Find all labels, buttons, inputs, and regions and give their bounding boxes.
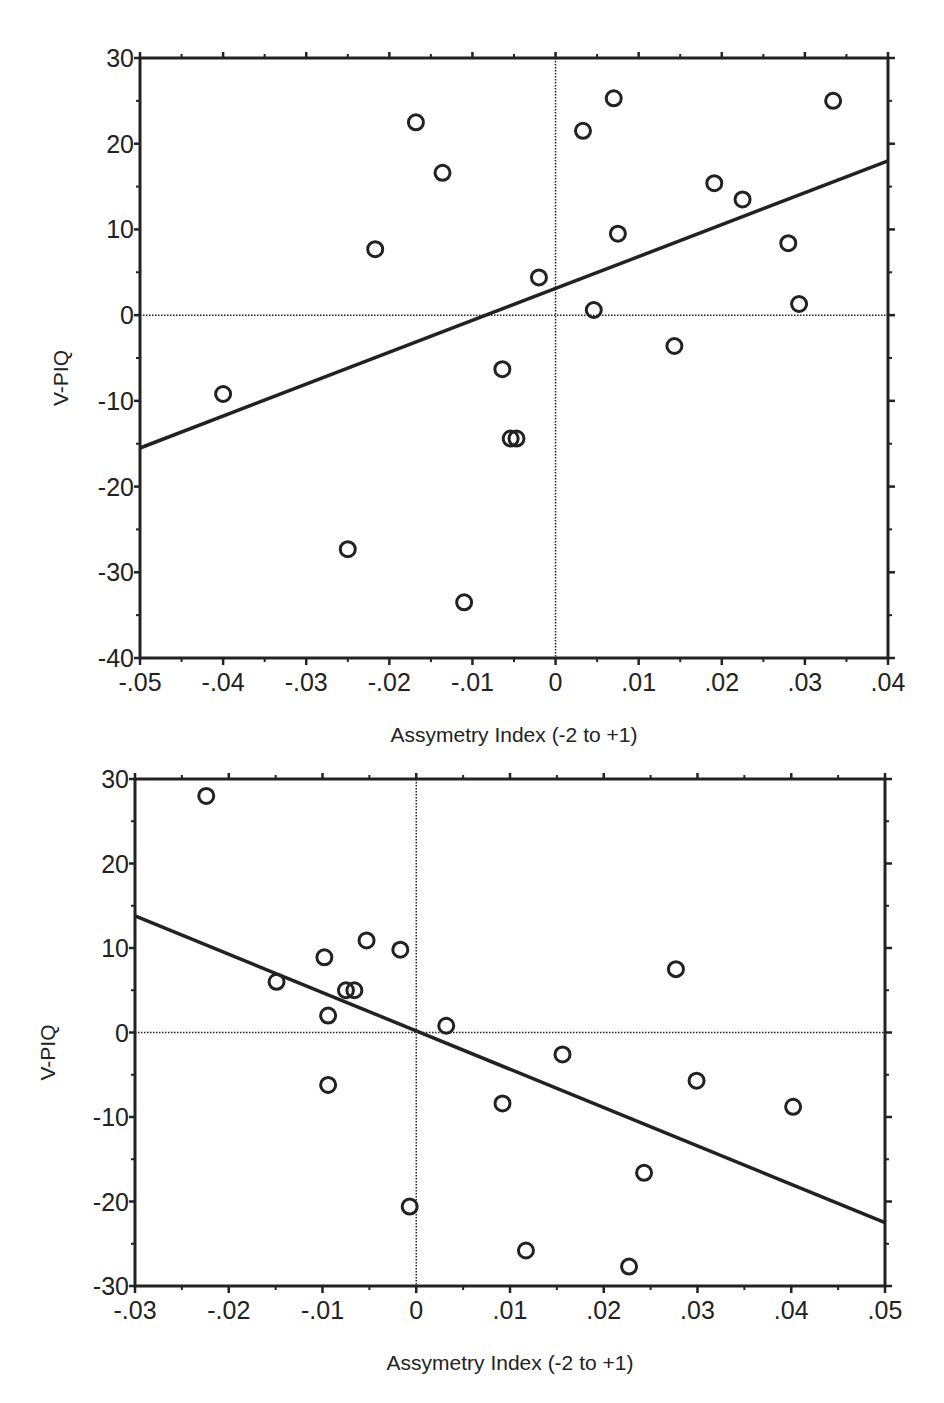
figure: -.05-.04-.03-.02-.010.01.02.03.043020100… xyxy=(0,0,944,1403)
x-tick-label: 0 xyxy=(409,1296,423,1324)
data-point xyxy=(359,933,374,948)
data-point xyxy=(622,1259,637,1274)
data-point xyxy=(786,1099,801,1114)
y-tick-label: 20 xyxy=(106,130,134,158)
regression-line xyxy=(140,161,888,448)
x-tick-label: -.04 xyxy=(202,668,245,696)
data-point xyxy=(199,788,214,803)
y-tick-label: 20 xyxy=(101,850,129,878)
x-axis-title: Assymetry Index (-2 to +1) xyxy=(387,1351,634,1374)
data-point xyxy=(435,165,450,180)
scatter-chart-top: -.05-.04-.03-.02-.010.01.02.03.043020100… xyxy=(49,44,905,746)
data-point xyxy=(792,297,807,312)
x-tick-label: .02 xyxy=(704,668,739,696)
data-point xyxy=(269,974,284,989)
data-point xyxy=(637,1165,652,1180)
x-tick-label: 0 xyxy=(549,668,563,696)
data-point xyxy=(518,1243,533,1258)
x-tick-label: .01 xyxy=(621,668,656,696)
data-point xyxy=(368,242,383,257)
y-tick-label: -20 xyxy=(93,1188,129,1216)
data-point xyxy=(321,1077,336,1092)
x-tick-label: -.05 xyxy=(118,668,161,696)
data-point xyxy=(317,950,332,965)
x-tick-label: .03 xyxy=(680,1296,715,1324)
data-point xyxy=(555,1047,570,1062)
x-tick-label: .02 xyxy=(586,1296,621,1324)
x-tick-label: -.01 xyxy=(301,1296,344,1324)
data-point xyxy=(531,270,546,285)
y-tick-label: -10 xyxy=(93,1103,129,1131)
x-tick-label: -.01 xyxy=(451,668,494,696)
y-tick-label: 30 xyxy=(106,44,134,72)
x-tick-label: .04 xyxy=(871,668,906,696)
data-point xyxy=(668,962,683,977)
data-point xyxy=(495,1096,510,1111)
x-tick-label: .01 xyxy=(493,1296,528,1324)
data-point xyxy=(707,176,722,191)
regression-line xyxy=(135,916,885,1223)
y-tick-label: -10 xyxy=(98,387,134,415)
y-tick-label: 0 xyxy=(115,1019,129,1047)
y-tick-label: 30 xyxy=(101,765,129,793)
x-tick-label: -.02 xyxy=(207,1296,250,1324)
x-tick-label: .05 xyxy=(868,1296,903,1324)
x-axis-title: Assymetry Index (-2 to +1) xyxy=(391,723,638,746)
data-point xyxy=(575,123,590,138)
x-tick-label: .04 xyxy=(774,1296,809,1324)
y-tick-label: 10 xyxy=(106,215,134,243)
y-tick-label: 0 xyxy=(120,301,134,329)
data-point xyxy=(781,236,796,251)
y-tick-label: -30 xyxy=(98,558,134,586)
x-tick-label: -.03 xyxy=(113,1296,156,1324)
y-axis-title: V-PIQ xyxy=(36,1024,59,1080)
x-tick-label: -.02 xyxy=(368,668,411,696)
y-tick-label: 10 xyxy=(101,934,129,962)
data-point xyxy=(457,595,472,610)
y-tick-label: -40 xyxy=(98,644,134,672)
x-tick-label: .03 xyxy=(788,668,823,696)
data-point xyxy=(495,362,510,377)
data-point xyxy=(321,1008,336,1023)
data-point xyxy=(826,93,841,108)
y-tick-label: -30 xyxy=(93,1272,129,1300)
data-point xyxy=(340,542,355,557)
x-tick-label: -.03 xyxy=(285,668,328,696)
data-point xyxy=(402,1199,417,1214)
data-point xyxy=(610,226,625,241)
data-point xyxy=(408,115,423,130)
data-point xyxy=(393,942,408,957)
data-point xyxy=(735,192,750,207)
data-point xyxy=(216,387,231,402)
plot-frame xyxy=(140,58,888,658)
data-point xyxy=(606,91,621,106)
data-point xyxy=(689,1073,704,1088)
scatter-chart-bottom: -.03-.02-.010.01.02.03.04.053020100-10-2… xyxy=(36,765,902,1374)
data-point xyxy=(439,1018,454,1033)
y-tick-label: -20 xyxy=(98,473,134,501)
data-point xyxy=(667,339,682,354)
y-axis-title: V-PIQ xyxy=(49,350,72,406)
